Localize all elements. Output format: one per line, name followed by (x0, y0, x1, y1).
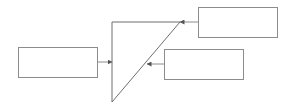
top-right-box (198, 7, 278, 38)
diagram-canvas (0, 0, 292, 112)
middle-right-box (164, 49, 244, 80)
left-box (18, 47, 98, 78)
